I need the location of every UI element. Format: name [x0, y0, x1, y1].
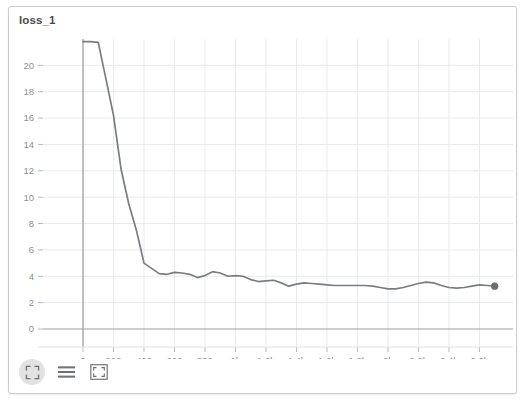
x-axis-tick-label: 1.8k	[348, 355, 366, 359]
expand-corners-icon[interactable]	[19, 359, 45, 385]
x-axis-tick-label: 2k	[383, 355, 393, 359]
series-line-loss_1	[83, 42, 495, 289]
fit-box-glyph	[90, 364, 108, 380]
y-axis-tick-label: 20	[23, 60, 34, 71]
x-axis-tick-label: 600	[167, 355, 183, 359]
y-axis-tick-label: 12	[23, 165, 34, 176]
chart-panel: loss_1 0246810121416182002004006008001k1…	[8, 6, 517, 394]
plot-area[interactable]: 0246810121416182002004006008001k1.2k1.4k…	[9, 29, 516, 359]
chart-toolbar[interactable]	[19, 357, 111, 387]
x-axis-tick-label: 1.4k	[287, 355, 305, 359]
y-axis-tick-label: 8	[29, 218, 34, 229]
loss-line-chart[interactable]: 0246810121416182002004006008001k1.2k1.4k…	[9, 29, 516, 359]
expand-corners-glyph	[25, 365, 40, 380]
x-axis-tick-label: 800	[197, 355, 213, 359]
x-axis-tick-label: 400	[136, 355, 152, 359]
y-axis-tick-label: 18	[23, 86, 34, 97]
x-axis-tick-label: 2.4k	[440, 355, 458, 359]
x-axis-tick-label: 1.6k	[318, 355, 336, 359]
x-axis-tick-label: 1.2k	[257, 355, 275, 359]
page-title: loss_1	[19, 14, 55, 26]
series-end-marker[interactable]	[491, 283, 498, 290]
fit-box-icon[interactable]	[87, 360, 111, 384]
lines-icon[interactable]	[54, 360, 78, 384]
y-axis-tick-label: 2	[29, 297, 34, 308]
y-axis-tick-label: 4	[29, 271, 34, 282]
y-axis-tick-label: 14	[23, 139, 34, 150]
y-axis-tick-label: 0	[29, 323, 34, 334]
x-axis-tick-label: 1k	[230, 355, 240, 359]
y-axis-tick-label: 6	[29, 244, 34, 255]
lines-glyph	[58, 365, 75, 379]
y-axis-tick-label: 16	[23, 112, 34, 123]
y-axis-tick-label: 10	[23, 192, 34, 203]
x-axis-tick-label: 2.6k	[470, 355, 488, 359]
x-axis-tick-label: 2.2k	[409, 355, 427, 359]
